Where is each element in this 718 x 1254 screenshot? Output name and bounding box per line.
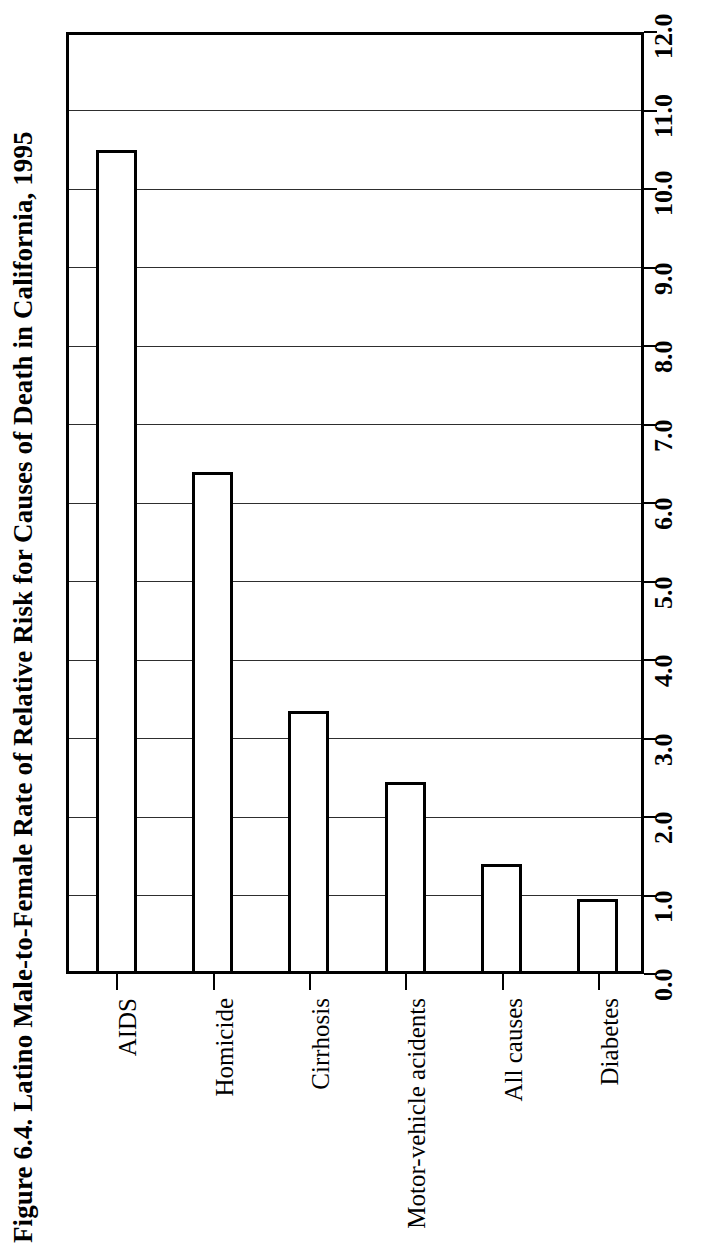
category-axis-tick bbox=[405, 974, 407, 990]
value-axis-label: 5.0 bbox=[649, 555, 675, 609]
category-axis-tick bbox=[598, 974, 600, 990]
value-axis: 0.01.02.03.04.05.06.07.08.09.010.011.012… bbox=[644, 32, 718, 974]
gridline bbox=[66, 581, 644, 582]
bar bbox=[481, 864, 522, 974]
value-axis-label: 2.0 bbox=[649, 790, 675, 844]
gridline bbox=[66, 817, 644, 818]
bar bbox=[288, 711, 329, 974]
category-axis-label: Motor-vehicle acidents bbox=[403, 998, 431, 1229]
value-axis-label: 4.0 bbox=[649, 633, 675, 687]
bar bbox=[577, 899, 618, 974]
value-axis-label: 1.0 bbox=[649, 869, 675, 923]
gridline bbox=[66, 660, 644, 661]
category-axis-tick bbox=[213, 974, 215, 990]
gridline bbox=[66, 738, 644, 739]
value-axis-label: 0.0 bbox=[649, 947, 675, 1001]
value-axis-label: 3.0 bbox=[649, 712, 675, 766]
gridline bbox=[66, 503, 644, 504]
gridline bbox=[66, 424, 644, 425]
bar bbox=[192, 472, 233, 974]
chart-plot-area bbox=[66, 32, 644, 974]
gridline bbox=[66, 110, 644, 111]
value-axis-label: 8.0 bbox=[649, 319, 675, 373]
figure-title: Figure 6.4. Latino Male-to-Female Rate o… bbox=[3, 13, 43, 1243]
value-axis-label: 10.0 bbox=[649, 162, 675, 216]
category-axis-tick bbox=[309, 974, 311, 990]
category-axis-tick bbox=[502, 974, 504, 990]
category-axis: AIDSHomicideCirrhosisMotor-vehicle acide… bbox=[66, 974, 644, 1254]
bar bbox=[96, 150, 137, 974]
value-axis-label: 11.0 bbox=[649, 84, 675, 138]
category-axis-label: AIDS bbox=[114, 998, 142, 1056]
category-axis-label: All causes bbox=[500, 998, 528, 1101]
category-axis-label: Diabetes bbox=[596, 998, 624, 1085]
gridline bbox=[66, 346, 644, 347]
value-axis-label: 7.0 bbox=[649, 398, 675, 452]
value-axis-label: 6.0 bbox=[649, 476, 675, 530]
value-axis-label: 9.0 bbox=[649, 241, 675, 295]
gridline bbox=[66, 267, 644, 268]
gridline bbox=[66, 895, 644, 896]
category-axis-tick bbox=[116, 974, 118, 990]
bar bbox=[385, 782, 426, 974]
gridline bbox=[66, 189, 644, 190]
value-axis-label: 12.0 bbox=[649, 5, 675, 59]
category-axis-label: Homicide bbox=[211, 998, 239, 1097]
category-axis-label: Cirrhosis bbox=[307, 998, 335, 1090]
